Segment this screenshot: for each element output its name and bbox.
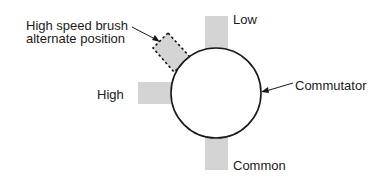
commutator-label: Commutator xyxy=(295,78,367,93)
alternate-arrowhead-icon xyxy=(152,35,160,42)
high-label: High xyxy=(97,87,124,102)
commutator-arrow-line xyxy=(266,83,293,91)
alternate-position-label-line2: alternate position xyxy=(26,31,125,46)
commutator-arrowhead-icon xyxy=(261,87,269,93)
common-label: Common xyxy=(233,158,286,173)
commutator-circle xyxy=(171,48,261,138)
low-label: Low xyxy=(233,12,257,27)
